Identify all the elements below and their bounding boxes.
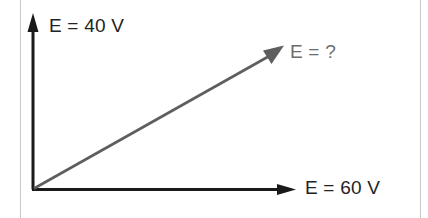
resultant-vector-label: E = ? (290, 42, 336, 61)
arrow-diagonal-up-right-icon (263, 46, 284, 65)
y-axis-label: E = 40 V (49, 16, 124, 35)
arrow-up-icon (28, 13, 39, 32)
resultant-vector-line (34, 55, 272, 189)
vector-diagram-figure: E = 40 V E = 60 V E = ? (0, 0, 428, 218)
arrow-right-icon (277, 184, 296, 195)
x-axis-label: E = 60 V (305, 178, 380, 197)
